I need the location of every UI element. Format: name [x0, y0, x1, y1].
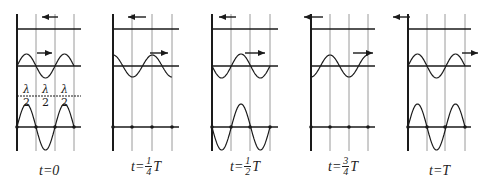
panel-1-node-dot	[150, 125, 154, 129]
panel-1-node-dot	[170, 125, 174, 129]
panel-3-node-dot	[347, 125, 351, 129]
panel-4-left-travel-arrow-head	[393, 14, 400, 20]
panel-0-lambda-den: 2	[42, 96, 49, 109]
panel-1-node-dot	[111, 125, 115, 129]
time-label-2: t=12T	[230, 156, 260, 177]
panel-3-left-travel-arrow-head	[304, 14, 311, 20]
panel-0-lambda-den: 2	[61, 96, 68, 109]
panel-0-lambda-num: λ	[22, 83, 30, 96]
time-label-4: t=T	[429, 163, 450, 179]
panel-0-left-travel-arrow-head	[42, 14, 49, 20]
panel-0-lambda-num: λ	[41, 83, 49, 96]
panel-3-node-dot	[309, 125, 313, 129]
panel-3-right-travel-arrow-head	[366, 50, 373, 56]
panel-2-left-travel-arrow-head	[219, 14, 226, 20]
panel-1-right-travel-arrow-head	[161, 50, 168, 56]
panel-0-lambda-den: 2	[23, 96, 30, 109]
panel-1-node-dot	[130, 125, 134, 129]
time-label-1: t=14T	[131, 156, 161, 177]
panel-3-node-dot	[366, 125, 370, 129]
panel-2-right-travel-arrow-head	[258, 50, 265, 56]
panel-3-node-dot	[328, 125, 332, 129]
panel-0-lambda-num: λ	[60, 83, 68, 96]
panel-4-right-travel-arrow-head	[471, 50, 478, 56]
panel-0-right-travel-arrow-head	[45, 50, 52, 56]
time-label-3: t=34T	[328, 156, 358, 177]
time-label-0: t=0	[39, 163, 59, 179]
